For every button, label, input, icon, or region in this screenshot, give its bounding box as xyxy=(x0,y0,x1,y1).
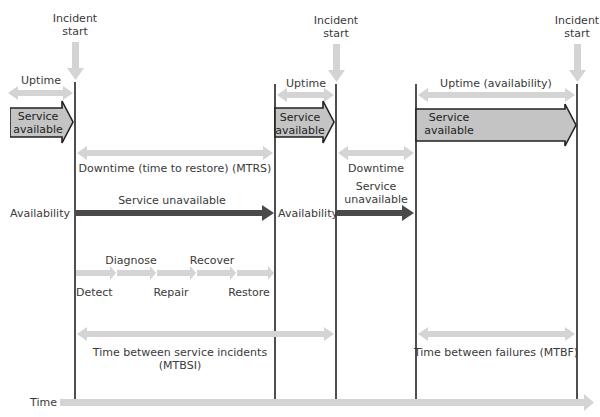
service-unavailable-label-2: Service unavailable xyxy=(344,180,408,206)
service-label-line1: Service xyxy=(424,111,474,124)
downtime-mtrs-label: Downtime (time to restore) (MTRS) xyxy=(79,162,272,175)
service-label-line2: available xyxy=(275,124,325,137)
incident-label-line2: start xyxy=(53,25,97,38)
incident-label-line2: start xyxy=(314,27,358,40)
mtbf-arrow xyxy=(418,327,575,341)
restore-step-arrows xyxy=(76,266,274,280)
incident-start-label-1: Incident start xyxy=(53,12,97,38)
incident-label-line1: Incident xyxy=(555,14,599,27)
step-label-restore: Restore xyxy=(228,286,270,299)
downtime-arrows xyxy=(77,146,414,160)
unavailable-arrows xyxy=(76,205,414,221)
incident-label-line1: Incident xyxy=(53,12,97,25)
mtbsi-label-line1: Time between service incidents xyxy=(93,346,267,359)
service-available-label-3: Service available xyxy=(424,111,474,137)
service-label-line1: Service xyxy=(275,111,325,124)
service-available-label-1: Service available xyxy=(13,110,63,136)
step-repair xyxy=(157,266,196,280)
incident-label-line2: start xyxy=(555,27,599,40)
incident-start-label-3: Incident start xyxy=(555,14,599,40)
availability-label-left: Availability xyxy=(10,207,70,220)
mtbf-label: Time between failures (MTBF) xyxy=(414,346,578,359)
step-restore xyxy=(237,266,274,280)
mtbsi-arrow xyxy=(77,327,334,341)
incident-start-label-2: Incident start xyxy=(314,14,358,40)
mtbsi-label: Time between service incidents (MTBSI) xyxy=(93,346,267,372)
time-axis-arrow xyxy=(60,394,594,411)
service-label-line1: Service xyxy=(13,110,63,123)
downtime-mtrs-arrow xyxy=(77,146,273,160)
unavailable-label-line2: unavailable xyxy=(344,193,408,206)
step-diagnose xyxy=(117,266,156,280)
incident-label-line1: Incident xyxy=(314,14,358,27)
step-detect xyxy=(76,266,116,280)
uptime-arrow-3 xyxy=(418,88,575,102)
incident-start-arrow-1 xyxy=(67,42,84,80)
time-axis-label: Time xyxy=(30,396,57,409)
unavailable-label-line1: Service xyxy=(344,180,408,193)
service-unavailable-label-1: Service unavailable xyxy=(118,194,226,207)
service-label-line2: available xyxy=(424,124,474,137)
step-label-recover: Recover xyxy=(190,254,235,267)
interval-arrows xyxy=(77,327,575,341)
downtime-label-2: Downtime xyxy=(348,162,404,175)
unavailable-arrow-1 xyxy=(76,205,274,221)
uptime-label-1: Uptime xyxy=(21,74,61,87)
uptime-arrow-1 xyxy=(8,86,73,100)
step-label-repair: Repair xyxy=(153,286,188,299)
mtbsi-label-line2: (MTBSI) xyxy=(93,359,267,372)
incident-start-arrow-2 xyxy=(328,44,345,82)
uptime-label-2: Uptime xyxy=(286,77,326,90)
incident-start-arrow-3 xyxy=(569,44,586,82)
downtime-arrow-2 xyxy=(338,146,414,160)
uptime-label-3: Uptime (availability) xyxy=(440,77,552,90)
service-label-line2: available xyxy=(13,123,63,136)
availability-label-middle: Availability xyxy=(278,207,338,220)
step-recover xyxy=(197,266,236,280)
uptime-arrow-2 xyxy=(277,88,334,102)
service-available-label-2: Service available xyxy=(275,111,325,137)
step-label-diagnose: Diagnose xyxy=(105,254,156,267)
step-label-detect: Detect xyxy=(76,286,113,299)
unavailable-arrow-2 xyxy=(337,205,414,221)
